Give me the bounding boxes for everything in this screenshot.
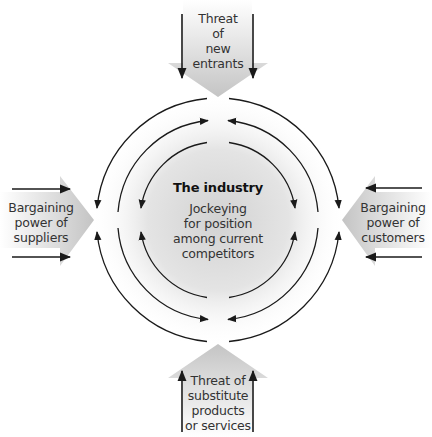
left-force-line-2: power of xyxy=(2,215,80,230)
bottom-force-line-2: substitute xyxy=(182,388,254,403)
bottom-force-line-4: or services xyxy=(182,418,254,433)
left-force-line-1: Bargaining xyxy=(2,200,80,215)
left-force-label: Bargaining power of suppliers xyxy=(2,200,80,245)
center-label: The industry Jockeying for position amon… xyxy=(158,180,278,261)
right-force-label: Bargaining power of customers xyxy=(354,200,432,245)
left-force-line-3: suppliers xyxy=(2,230,80,245)
right-force-line-2: power of xyxy=(354,215,432,230)
top-force-line-3: new xyxy=(188,41,248,56)
center-line-2: for position xyxy=(158,216,278,231)
top-force-line-4: entrants xyxy=(188,56,248,71)
top-force-label: Threat of new entrants xyxy=(188,11,248,71)
bottom-force-line-3: products xyxy=(182,403,254,418)
center-line-3: among current xyxy=(158,231,278,246)
bottom-force-line-1: Threat of xyxy=(182,373,254,388)
right-force-line-3: customers xyxy=(354,230,432,245)
top-force-line-2: of xyxy=(188,26,248,41)
center-title: The industry xyxy=(158,180,278,195)
center-line-1: Jockeying xyxy=(158,201,278,216)
right-force-line-1: Bargaining xyxy=(354,200,432,215)
center-line-4: competitors xyxy=(158,246,278,261)
bottom-force-label: Threat of substitute products or service… xyxy=(182,373,254,433)
top-force-line-1: Threat xyxy=(188,11,248,26)
